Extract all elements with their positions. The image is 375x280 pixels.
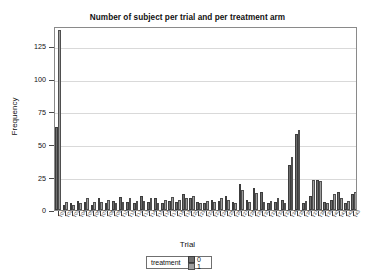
legend-swatch — [188, 263, 195, 270]
x-axis-label: Trial — [0, 240, 375, 249]
bar — [333, 194, 336, 210]
y-tick-label: 25 — [20, 175, 46, 182]
bar — [58, 30, 61, 210]
y-axis-label: Frequency — [10, 82, 19, 152]
bar — [241, 190, 244, 210]
bar — [312, 180, 315, 210]
legend-swatch — [188, 256, 195, 263]
legend-label: 0 — [197, 256, 201, 263]
chart-title: Number of subject per trial and per trea… — [0, 13, 375, 22]
y-tick-label: 50 — [20, 142, 46, 149]
gridline — [55, 179, 356, 180]
legend-entry[interactable]: 0 — [188, 256, 201, 263]
bar — [291, 157, 294, 210]
y-tick-label: 0 — [20, 207, 46, 214]
chart-container: Number of subject per trial and per trea… — [0, 0, 375, 280]
legend-label: 1 — [197, 263, 201, 270]
legend-entry[interactable]: 1 — [188, 263, 201, 270]
gridline — [55, 81, 356, 82]
bar — [319, 181, 322, 210]
legend-entries: 01 — [188, 256, 207, 270]
bar — [298, 130, 301, 210]
y-tick-label: 75 — [20, 109, 46, 116]
gridline — [55, 146, 356, 147]
gridline — [55, 48, 356, 49]
x-axis-tick-labels: T01T02T03T04T05T06T07T08T09T10T11T12T13T… — [54, 216, 357, 238]
gridline — [55, 113, 356, 114]
x-tick-label: T43 — [353, 209, 361, 218]
plot-area — [54, 27, 357, 211]
bar — [255, 193, 258, 210]
y-tick-label: 125 — [20, 43, 46, 50]
y-tick-label: 100 — [20, 76, 46, 83]
bar — [129, 198, 132, 210]
legend-title: treatment — [151, 259, 181, 266]
bar — [354, 192, 357, 210]
bar — [220, 198, 223, 210]
legend: treatment 01 — [146, 256, 212, 269]
